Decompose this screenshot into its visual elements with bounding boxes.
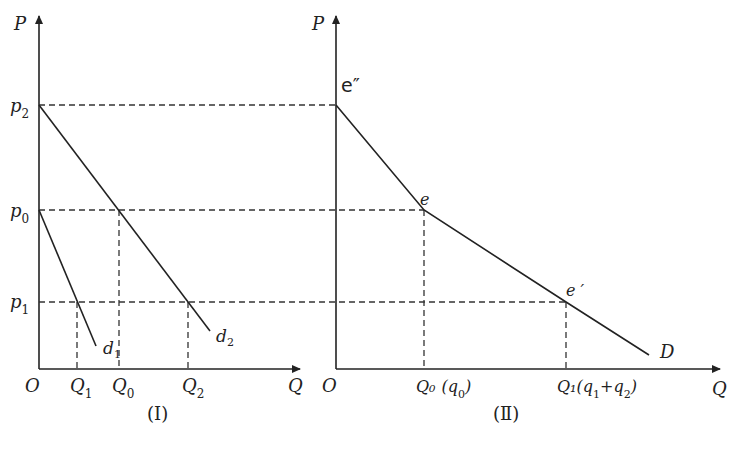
panel-caption-two: (Ⅱ) xyxy=(493,403,519,424)
tick-q2-label: Q2 xyxy=(182,375,204,401)
tick-p1-label: p1 xyxy=(10,291,29,317)
kinked-demand-diagram: P p2 p0 p1 O Q1 Q0 Q2 Q d1 d2 (Ⅰ) P e″ e… xyxy=(0,0,740,449)
guide-lines-left xyxy=(39,105,566,369)
panel-two: P e″ e e ′ D O Q₀(q0) Q₁(q1+q2) Q (Ⅱ) xyxy=(311,13,727,424)
point-label-e-double-prime: e″ xyxy=(341,74,360,96)
y-axis-label-left: P xyxy=(13,13,27,34)
demand-curve-d1 xyxy=(39,210,96,346)
x-axis-label-left: Q xyxy=(288,375,303,396)
kinked-demand-curve-D xyxy=(336,105,649,355)
tick-q1-label: Q1 xyxy=(70,375,92,401)
x-axis-label-right: Q xyxy=(712,378,727,399)
demand-curve-d2 xyxy=(39,105,210,331)
panel-caption-one: (Ⅰ) xyxy=(147,403,168,424)
guide-lines-right xyxy=(424,210,566,369)
curve-label-D: D xyxy=(659,341,675,362)
tick-q0-label: Q0 xyxy=(112,375,134,401)
tick-p0-label: p0 xyxy=(10,200,29,226)
curve-label-d1: d1 xyxy=(103,338,121,361)
tick-Q0-q0-label: Q₀(q0) xyxy=(416,377,471,401)
y-axis-label-right: P xyxy=(311,13,325,34)
point-label-e-prime: e ′ xyxy=(566,281,585,300)
origin-label-right: O xyxy=(322,375,337,396)
tick-Q1-q1-q2-label: Q₁(q1+q2) xyxy=(557,377,637,401)
panel-one: P p2 p0 p1 O Q1 Q0 Q2 Q d1 d2 (Ⅰ) xyxy=(10,13,566,424)
tick-p2-label: p2 xyxy=(10,95,29,121)
point-label-e: e xyxy=(420,190,429,209)
origin-label-left: O xyxy=(25,375,40,396)
curve-label-d2: d2 xyxy=(216,326,234,349)
